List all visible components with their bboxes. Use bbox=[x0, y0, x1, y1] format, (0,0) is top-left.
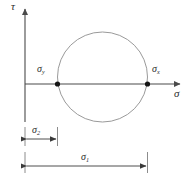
sigma-2-subscript: 2 bbox=[37, 129, 40, 136]
sigma-y-label: σy bbox=[37, 64, 45, 74]
sigma-x-subscript: x bbox=[157, 68, 160, 75]
sigma-y-point bbox=[55, 81, 60, 86]
mohr-circle-figure: τ σ σy σx σ2 σ1 bbox=[0, 0, 186, 178]
sigma-y-subscript: y bbox=[42, 68, 45, 75]
figure-canvas bbox=[0, 0, 186, 178]
sigma-1-dimension-label: σ1 bbox=[81, 152, 89, 162]
mohr-circle bbox=[58, 32, 148, 122]
sigma-x-point bbox=[145, 81, 150, 86]
tau-symbol: τ bbox=[11, 0, 15, 12]
sigma-1-subscript: 1 bbox=[86, 156, 89, 163]
tau-axis-label: τ bbox=[11, 1, 15, 12]
sigma-x-label: σx bbox=[152, 64, 160, 74]
sigma-symbol: σ bbox=[174, 87, 179, 99]
sigma-axis-label: σ bbox=[174, 88, 179, 99]
sigma-2-dimension-label: σ2 bbox=[32, 125, 40, 135]
